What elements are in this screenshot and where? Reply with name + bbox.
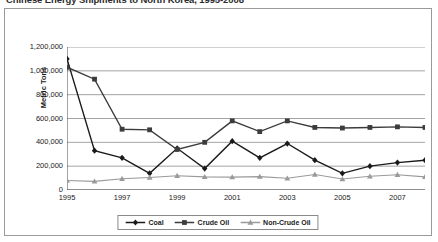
square-marker-icon [175,218,195,227]
x-tick-label: 2003 [267,193,307,202]
data-point-marker [422,157,425,163]
data-point-marker [182,220,187,225]
diamond-marker-icon [125,218,145,227]
legend-label: Coal [148,219,163,226]
legend-entry-crude-oil[interactable]: Crude Oil [175,218,230,227]
data-point-marker [285,140,290,146]
data-point-marker [312,157,317,163]
data-point-marker [395,124,400,129]
data-point-marker [202,140,207,145]
data-point-marker [423,125,425,130]
data-point-marker [312,172,318,177]
x-axis-tick-labels: 1995199719992001200320052007 [67,193,425,207]
triangle-marker-icon [240,218,260,227]
data-point-marker [175,147,180,152]
data-point-marker [368,125,373,130]
series-crude-oil [67,65,425,152]
series-coal [67,56,425,177]
x-tick-label: 1997 [102,193,142,202]
series-line [67,67,425,149]
chart-frame: Metric Tons 0200,000400,000600,000800,00… [4,8,432,236]
data-point-marker [119,155,124,161]
figure-title: Chinese Energy Shipments to North Korea,… [6,0,244,5]
series-line [67,59,425,173]
series-non-crude-oil [67,172,425,184]
x-tick-label: 1999 [157,193,197,202]
data-point-marker [120,127,125,132]
data-point-marker [133,219,138,225]
chart-legend: CoalCrude OilNon-Crude Oil [117,215,318,230]
plot-area [67,47,425,190]
x-tick-label: 2007 [377,193,417,202]
data-point-marker [285,118,290,123]
x-tick-label: 2005 [322,193,362,202]
data-point-marker [312,125,317,130]
y-axis-tick-labels: 0200,000400,000600,000800,0001,000,0001,… [11,9,63,242]
data-point-marker [367,163,372,169]
data-point-marker [340,170,345,176]
y-tick-label: 1,000,000 [15,66,63,75]
data-point-marker [395,159,400,165]
data-point-marker [92,148,97,154]
legend-entry-coal[interactable]: Coal [125,218,163,227]
legend-entry-non-crude-oil[interactable]: Non-Crude Oil [240,218,310,227]
y-tick-label: 600,000 [15,114,63,123]
data-point-marker [257,129,262,134]
x-tick-label: 1995 [47,193,87,202]
data-point-marker [257,155,262,161]
chart-plot-svg [67,47,425,190]
x-tick-label: 2001 [212,193,252,202]
data-point-marker [147,127,152,132]
y-tick-label: 400,000 [15,137,63,146]
y-tick-label: 200,000 [15,161,63,170]
legend-label: Crude Oil [198,219,230,226]
y-tick-label: 800,000 [15,90,63,99]
y-tick-label: 1,200,000 [15,42,63,51]
data-point-marker [67,65,69,70]
data-point-marker [340,126,345,131]
data-point-marker [230,118,235,123]
data-point-marker [92,77,97,82]
legend-label: Non-Crude Oil [263,219,310,226]
